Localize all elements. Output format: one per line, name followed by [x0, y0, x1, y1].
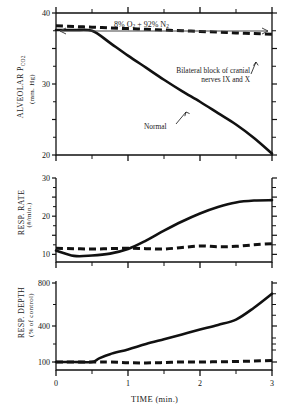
ytick-label: 20	[42, 212, 50, 221]
xtick-label: 1	[126, 379, 130, 388]
xtick-label: 2	[198, 379, 202, 388]
xtick-label: 3	[270, 379, 274, 388]
ytick-label: 20	[42, 151, 50, 160]
gas-sub2: 2	[166, 23, 169, 29]
series-line-normal	[56, 200, 272, 256]
series-line-normal	[56, 30, 272, 154]
ytick-label: 400	[38, 322, 50, 331]
ytick-label: 30	[42, 80, 50, 89]
panel2-yunits: (#/min.)	[25, 177, 33, 253]
panel-frame	[56, 13, 272, 155]
ytick-label: 10	[42, 250, 50, 259]
gas-mixture-annotation: 8% O2 + 92% N2	[114, 20, 169, 29]
panel1-yunits: (mm. Hg)	[28, 49, 36, 129]
panel-resp-rate-min: 102030	[42, 174, 277, 268]
ytick-label: 40	[42, 9, 50, 18]
leader-arrow-normal	[185, 112, 190, 116]
panel3-ylabel: RESP. DEPTH	[17, 272, 26, 354]
blocked-series-label-line2: nerves IX and X	[138, 75, 250, 84]
normal-series-label: Normal	[144, 122, 167, 131]
ytick-label: 100	[38, 358, 50, 367]
series-line-normal	[56, 294, 272, 363]
gas-pre: 8% O	[114, 20, 132, 29]
panel1-ylabel-sub: CO2	[20, 55, 26, 66]
ytick-label: 30	[42, 174, 50, 183]
xaxis-title: TIME (min.)	[131, 394, 178, 404]
panel-resp-depth-of-control: 1004008000123	[38, 279, 277, 388]
series-line-blocked	[56, 244, 272, 249]
blocked-series-label: Bilateral block of cranial nerves IX and…	[138, 66, 250, 84]
blocked-series-label-line1: Bilateral block of cranial	[138, 66, 250, 75]
ytick-label: 800	[38, 279, 50, 288]
gas-mid: + 92% N	[135, 20, 166, 29]
multi-panel-chart: 2030401020301004008000123	[0, 0, 299, 412]
figure-container: 2030401020301004008000123 ALVEOLAR PCO2 …	[0, 0, 299, 412]
panel1-ylabel: ALVEOLAR PCO2	[16, 44, 25, 130]
leader-line-normal	[176, 112, 186, 124]
panel-frame	[56, 281, 272, 370]
xtick-label: 0	[54, 379, 58, 388]
leader-arrow-blocked	[253, 62, 258, 66]
panel-alveolar-pco2-mm-hg: 203040	[42, 7, 277, 161]
panel3-yunits: (% of control)	[27, 277, 35, 353]
leader-line-blocked	[251, 62, 256, 74]
panel-frame	[56, 178, 272, 262]
panel1-ylabel-text: ALVEOLAR P	[16, 66, 25, 118]
